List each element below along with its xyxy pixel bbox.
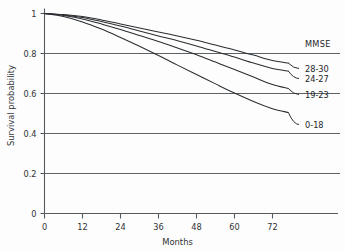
legend-label-24-27: 24-27 <box>305 74 329 84</box>
legend-leader-28-30 <box>288 63 299 68</box>
y-tick-label-0: 0 <box>31 209 36 219</box>
x-tick-label-6: 72 <box>267 222 277 232</box>
survival-curve-figure: 00.20.40.60.810122436486072 28-3024-2719… <box>0 0 345 251</box>
legend-label-19-23: 19-23 <box>305 90 329 100</box>
legend-title: MMSE <box>305 39 331 49</box>
legend-label-0-18: 0-18 <box>305 120 324 130</box>
legend-labels-group: 28-3024-2719-230-18 <box>305 64 329 130</box>
survival-curves-group <box>45 14 289 113</box>
y-axis-title: Survival probability <box>6 65 16 146</box>
x-tick-label-3: 36 <box>153 222 163 232</box>
x-tick-label-2: 24 <box>115 222 125 232</box>
x-axis-title: Months <box>162 237 193 247</box>
survival-curve-19-23 <box>45 14 289 89</box>
y-tick-label-4: 0.8 <box>23 49 36 59</box>
x-tick-label-4: 48 <box>191 222 201 232</box>
chart-canvas: 00.20.40.60.810122436486072 28-3024-2719… <box>0 0 345 251</box>
x-tick-label-1: 12 <box>77 222 87 232</box>
y-tick-label-5: 1 <box>31 9 36 19</box>
survival-curve-24-27 <box>45 14 289 72</box>
x-tick-label-0: 0 <box>42 222 47 232</box>
tick-labels-group: 00.20.40.60.810122436486072 <box>23 9 277 232</box>
y-tick-label-3: 0.6 <box>23 89 36 99</box>
tick-marks-group <box>41 14 273 219</box>
legend-leader-24-27 <box>288 71 299 78</box>
y-tick-label-2: 0.4 <box>23 129 36 139</box>
x-tick-label-5: 60 <box>229 222 239 232</box>
y-tick-label-1: 0.2 <box>23 169 36 179</box>
gridlines-group <box>45 54 341 174</box>
legend-label-28-30: 28-30 <box>305 64 329 74</box>
legend-leader-0-18 <box>288 113 299 125</box>
